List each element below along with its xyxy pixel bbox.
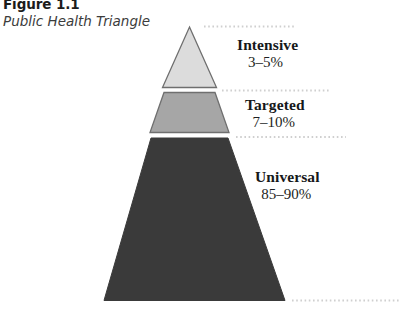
tier-label-targeted-name: Targeted [245,96,305,113]
tier-label-universal: Universal 85–90% [255,168,320,203]
tier-label-targeted-value: 7–10% [245,114,305,131]
pyramid-tier-targeted [150,93,229,133]
tier-label-intensive-value: 3–5% [237,54,298,71]
public-health-triangle-pyramid [0,0,402,313]
tier-label-intensive-name: Intensive [237,36,298,53]
pyramid-tier-intensive [163,27,217,88]
tier-label-intensive: Intensive 3–5% [237,36,298,71]
figure-container: Figure 1.1 Public Health Triangle Intens… [0,0,402,313]
tier-label-targeted: Targeted 7–10% [245,96,305,131]
pyramid-tier-universal [104,138,285,301]
tier-label-universal-name: Universal [255,168,320,185]
tier-label-universal-value: 85–90% [255,186,320,203]
